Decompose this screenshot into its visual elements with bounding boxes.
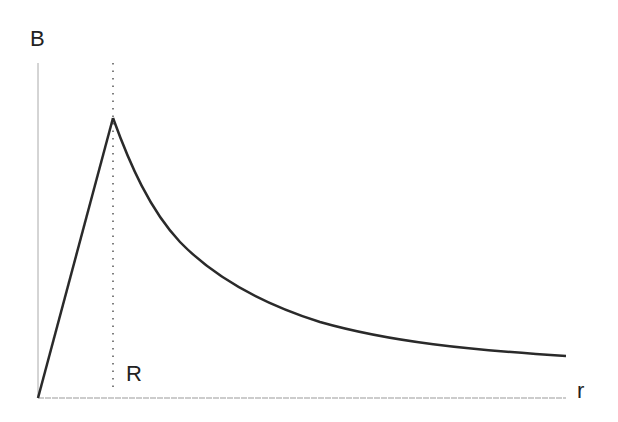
field-curve-outside [113,118,566,356]
field-curve-inside [38,118,113,398]
x-axis-label: r [577,380,584,402]
radius-marker-label: R [126,363,142,385]
field-diagram [0,0,618,422]
y-axis-label: B [30,28,45,50]
